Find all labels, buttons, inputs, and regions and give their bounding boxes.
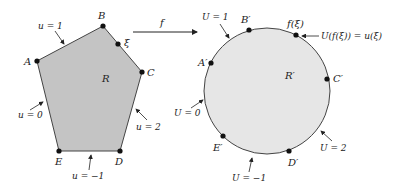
label-f-xi: f(ξ) [286,18,304,29]
boundary-u0: u = 0 [18,110,43,120]
label-C: C [147,67,155,78]
arrow-U1 [220,24,229,38]
equation-label: U(f(ξ)) = u(ξ) [321,31,382,41]
label-A-prime: A′ [197,57,208,68]
point-f-xi [293,32,298,37]
conformal-map-diagram: A B C D E ξ R u = 1 u = 0 u = 2 u = −1 f… [0,0,401,194]
point-A-prime [208,60,213,65]
point-D-prime [286,148,291,153]
region-label-R: R [101,73,110,84]
arrow-u1 [55,31,64,44]
label-A: A [23,56,31,67]
vertex-D [117,148,122,153]
boundary-u2: u = 2 [136,122,161,132]
label-B: B [97,10,105,21]
boundary-U0: U = 0 [174,108,201,118]
label-D: D [114,156,123,167]
point-B-prime [246,27,251,32]
arrow-u2 [136,109,147,120]
map-label-f: f [159,17,166,28]
arrow-u0 [30,102,43,110]
point-xi [115,41,120,46]
label-E: E [54,156,63,167]
arrow-u-minus1 [89,155,91,170]
vertex-B [100,23,105,28]
arrow-U2 [321,131,332,141]
vertex-C [139,69,144,74]
label-xi: ξ [124,37,130,48]
point-E-prime [220,133,225,138]
label-D-prime: D′ [287,157,299,168]
vertex-E [56,148,61,153]
boundary-u1: u = 1 [38,21,63,31]
vertex-A [34,58,39,63]
arrow-U-minus1 [249,158,252,172]
boundary-U1: U = 1 [202,12,229,22]
label-B-prime: B′ [240,14,251,25]
label-E-prime: E′ [212,142,223,153]
boundary-U2: U = 2 [320,143,347,153]
point-C-prime [324,76,329,81]
boundary-u-minus1: u = −1 [72,171,104,181]
arrow-U0 [191,100,203,108]
region-label-R-prime: R′ [284,70,296,81]
boundary-U-minus1: U = −1 [232,173,266,183]
label-C-prime: C′ [333,73,344,84]
